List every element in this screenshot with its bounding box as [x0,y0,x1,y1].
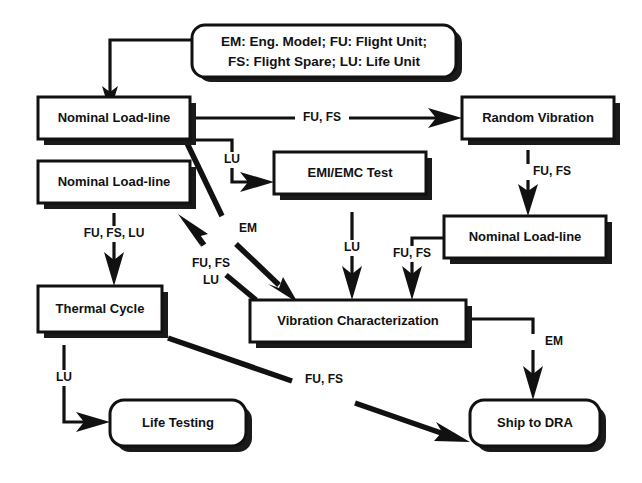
edge-nominal1-to-emi-emc: LU [190,140,274,192]
edge-label-emi-vibchar: LU [344,240,360,254]
node-thermal-cycle: Thermal Cycle [38,286,168,338]
edge-label-nominal2-thermal: FU, FS, LU [84,226,145,240]
edge-label-random-nominal3: FU, FS [533,164,571,178]
node-label-thermal-cycle: Thermal Cycle [56,301,145,316]
edge-label-vibchar-nominal2-line1: FU, FS [192,256,230,270]
edge-thermal-cycle-to-life-testing: LU [56,345,110,432]
edge-label-nominal1-vibchar: EM [239,221,257,235]
edge-nominal3-to-vibration-characterization: FU, FS [393,238,444,300]
edge-label-vibchar-nominal2-line2: LU [203,273,219,287]
node-label-nominal-load-line-1: Nominal Load-line [58,110,171,125]
edge-label-thermal-ship: FU, FS [305,372,343,386]
edge-emi-emc-to-vibration-characterization: LU [342,212,362,300]
node-label-life-testing: Life Testing [142,415,214,430]
node-label-vibration-characterization: Vibration Characterization [277,313,439,328]
node-life-testing: Life Testing [110,400,252,452]
flowchart-diagram: FU, FS LU EM FU, FS LU [0,0,642,483]
node-label-ship-to-dra: Ship to DRA [497,415,573,430]
edge-nominal1-to-random-vibration: FU, FS [190,108,462,128]
node-emi-emc-test: EMI/EMC Test [274,152,432,200]
edge-label-nominal1-random: FU, FS [303,110,341,124]
node-label-emi-emc-test: EMI/EMC Test [308,165,394,180]
node-label-nominal-load-line-3: Nominal Load-line [469,229,582,244]
node-nominal-load-line-3: Nominal Load-line [444,216,612,264]
edge-random-vibration-to-nominal3: FU, FS [518,150,571,216]
node-label-nominal-load-line-2: Nominal Load-line [58,174,171,189]
node-vibration-characterization: Vibration Characterization [250,300,472,348]
node-nominal-load-line-1: Nominal Load-line [38,97,196,145]
edge-label-vibchar-ship: EM [545,334,563,348]
edge-label-nominal1-emi: LU [224,152,240,166]
edge-vibration-characterization-to-ship-to-dra: EM [466,319,563,400]
flowchart-canvas: FU, FS LU EM FU, FS LU [0,0,642,483]
node-random-vibration: Random Vibration [462,97,620,145]
node-nominal-load-line-2: Nominal Load-line [38,161,196,209]
edge-label-nominal3-vibchar: FU, FS [393,246,431,260]
legend-line-1: EM: Eng. Model; FU: Flight Unit; [221,34,427,49]
node-label-random-vibration: Random Vibration [482,110,594,125]
node-ship-to-dra: Ship to DRA [470,400,606,452]
legend-box: EM: Eng. Model; FU: Flight Unit; FS: Fli… [192,25,462,82]
legend-line-2: FS: Flight Spare; LU: Life Unit [228,54,420,69]
edge-label-thermal-life: LU [56,370,72,384]
edge-nominal2-to-thermal-cycle: FU, FS, LU [84,213,145,286]
